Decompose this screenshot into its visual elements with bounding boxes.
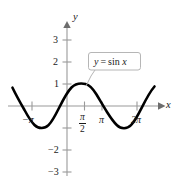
x-tick-label-2pi: 2π — [131, 115, 141, 125]
callout-leader-line — [86, 70, 95, 86]
fraction-denominator: 2 — [79, 125, 86, 135]
fraction-numerator: π — [79, 113, 86, 123]
y-axis-arrowhead — [63, 21, 70, 28]
sine-graph-figure: y x 3 2 1 −2 −3 −π π 2π π 2 y=sin x — [0, 0, 177, 178]
y-tick-label-1: 1 — [54, 79, 59, 89]
y-axis-label: y — [73, 12, 78, 23]
equation-lhs: y — [94, 56, 98, 67]
x-axis-arrowhead — [158, 102, 166, 109]
x-tick-label-pi: π — [99, 115, 104, 125]
x-tick-label-pi-over-2: π 2 — [79, 113, 86, 135]
y-tick-label-3: 3 — [53, 35, 58, 45]
equation-function-name: sin — [108, 56, 120, 67]
equation-equals-sign: = — [100, 56, 106, 67]
graph-canvas — [0, 0, 177, 178]
equation-variable: x — [122, 56, 126, 67]
x-axis-label: x — [166, 100, 171, 111]
y-tick-label-2: 2 — [53, 57, 58, 67]
x-tick-label-minus-pi: −π — [22, 115, 34, 125]
y-tick-label-minus-2: −2 — [48, 145, 59, 155]
y-tick-label-minus-3: −3 — [48, 167, 59, 177]
equation-callout-label: y=sin x — [94, 56, 127, 67]
